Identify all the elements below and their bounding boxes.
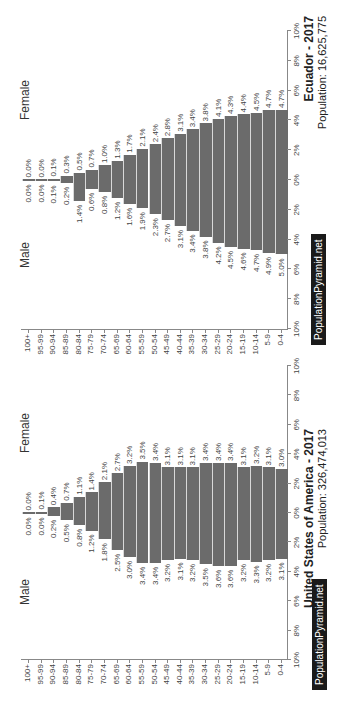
female-bar[interactable] [161, 138, 174, 180]
female-bar[interactable] [149, 144, 162, 180]
percent-tick [287, 90, 291, 91]
male-value-label: 0.0% [36, 184, 48, 202]
age-group-label: 5-9 [262, 334, 274, 368]
age-group-label: 95-99 [35, 334, 47, 368]
age-tick [129, 329, 130, 333]
age-group-label: 65-69 [111, 334, 123, 368]
age-group-label: 0-4 [275, 334, 287, 368]
male-bar[interactable] [73, 180, 86, 201]
age-group-label: 70-74 [98, 334, 110, 368]
age-group-label: 35-39 [186, 334, 198, 368]
female-value-label: 4.1% [213, 99, 225, 117]
male-bar[interactable] [212, 180, 225, 243]
female-value-label: 2.4% [150, 124, 162, 142]
male-bar[interactable] [237, 180, 250, 249]
percent-tick [287, 328, 291, 329]
age-group-label: 10-14 [250, 334, 262, 368]
male-bar[interactable] [250, 180, 263, 250]
female-bar[interactable] [123, 155, 136, 180]
percent-tick-label: 8% [292, 46, 301, 76]
male-bar[interactable] [275, 180, 288, 255]
female-bar[interactable] [237, 114, 250, 180]
male-value-label: 0.2% [61, 187, 73, 205]
male-bar[interactable] [262, 180, 275, 253]
male-bar[interactable] [111, 180, 124, 198]
female-value-label: 4.4% [238, 94, 250, 112]
female-bar[interactable] [35, 179, 48, 180]
male-value-label: 3.8% [200, 240, 212, 258]
female-bar[interactable] [212, 119, 225, 180]
age-tick [142, 329, 143, 333]
male-value-label: 0.8% [99, 196, 111, 214]
watermark-brand[interactable]: PopulationPyramid.net [311, 234, 326, 345]
male-value-label: 4.9% [263, 257, 275, 275]
female-bar[interactable] [224, 116, 237, 180]
female-bar[interactable] [186, 129, 199, 180]
female-bar[interactable] [98, 165, 111, 180]
female-value-label: 1.3% [112, 140, 124, 158]
male-bar[interactable] [174, 180, 187, 226]
age-group-label: 40-44 [174, 334, 186, 368]
male-bar[interactable] [35, 180, 48, 181]
female-value-label: 0.0% [36, 159, 48, 177]
male-bar[interactable] [186, 180, 199, 231]
age-tick [256, 329, 257, 333]
male-bar[interactable] [161, 180, 174, 220]
percent-tick [287, 30, 291, 31]
female-bar[interactable] [73, 173, 86, 180]
percent-tick [287, 119, 291, 120]
male-value-label: 3.4% [187, 234, 199, 252]
female-bar[interactable] [199, 123, 212, 180]
female-bar[interactable] [136, 149, 149, 180]
female-value-label: 4.5% [251, 93, 263, 111]
female-bar[interactable] [60, 176, 73, 180]
female-bar[interactable] [22, 179, 35, 180]
male-bar[interactable] [60, 180, 73, 183]
female-bar[interactable] [275, 110, 288, 180]
percent-tick-label: 4% [292, 225, 301, 255]
male-label: Male [18, 242, 32, 268]
female-bar[interactable] [85, 170, 98, 180]
male-bar[interactable] [85, 180, 98, 189]
male-bar[interactable] [47, 180, 60, 181]
female-value-label: 3.8% [200, 103, 212, 121]
female-bar[interactable] [174, 134, 187, 180]
age-tick [167, 329, 168, 333]
female-value-label: 0.7% [86, 149, 98, 167]
age-group-label: 90-94 [47, 334, 59, 368]
female-bar[interactable] [250, 113, 263, 180]
percent-tick-label: 8% [292, 284, 301, 314]
male-bar[interactable] [98, 180, 111, 192]
female-bar[interactable] [47, 179, 60, 180]
male-bar[interactable] [123, 180, 136, 204]
male-bar[interactable] [136, 180, 149, 208]
age-tick [268, 329, 269, 333]
age-group-label: 50-54 [149, 334, 161, 368]
male-value-label: 2.7% [162, 224, 174, 242]
male-value-label: 2.3% [150, 218, 162, 236]
age-tick [41, 329, 42, 333]
male-bar[interactable] [149, 180, 162, 214]
rotated-stage: Male Female United States of America - 2… [0, 0, 343, 709]
percent-tick-label: 4% [292, 105, 301, 135]
chart-title: Ecuador - 2017 Population: 16,625,775 [302, 16, 328, 129]
age-tick [243, 329, 244, 333]
female-value-label: 0.3% [61, 155, 73, 173]
male-value-label: 4.5% [225, 251, 237, 269]
male-value-label: 3.1% [175, 230, 187, 248]
female-bar[interactable] [262, 110, 275, 180]
age-tick [192, 329, 193, 333]
male-bar[interactable] [22, 180, 35, 181]
age-tick [79, 329, 80, 333]
female-bar[interactable] [111, 161, 124, 180]
male-value-label: 4.7% [251, 254, 263, 272]
ecuador-pyramid-chart: Male Female Ecuador - 2017 Population: 1… [0, 0, 343, 709]
male-bar[interactable] [199, 180, 212, 237]
percent-tick [287, 268, 291, 269]
female-value-label: 3.1% [175, 114, 187, 132]
age-tick [205, 329, 206, 333]
male-bar[interactable] [224, 180, 237, 247]
female-value-label: 1.0% [99, 145, 111, 163]
percent-tick-label: 6% [292, 76, 301, 106]
female-label: Female [18, 80, 32, 120]
